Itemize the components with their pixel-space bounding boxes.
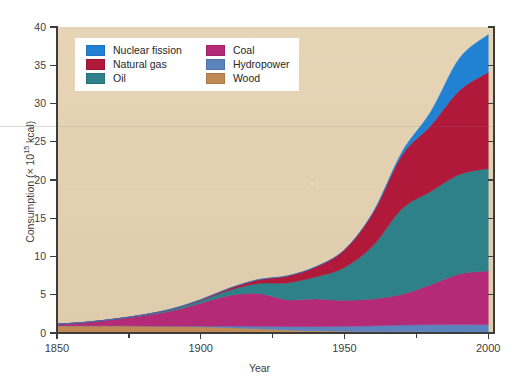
y-tick-5	[50, 294, 56, 295]
legend-label-coal: Coal	[233, 45, 255, 56]
legend-item-natural-gas[interactable]: Natural gas	[86, 59, 182, 70]
x-tick-label-1900: 1900	[171, 343, 231, 354]
y-tick-25	[50, 141, 56, 142]
scan-artifact-line	[57, 126, 494, 127]
x-tick-label-1850: 1850	[27, 343, 87, 354]
x-minor-tick-1925	[272, 333, 273, 338]
legend-item-wood[interactable]: Wood	[206, 73, 290, 84]
y-tick-right-30	[488, 103, 494, 104]
x-tick-label-1950: 1950	[315, 343, 375, 354]
y-tick-right-10	[488, 256, 494, 257]
legend-item-coal[interactable]: Coal	[206, 45, 290, 56]
y-tick-label-40: 40	[6, 22, 46, 33]
legend-column-left: Nuclear fission Natural gas Oil	[86, 45, 182, 84]
y-tick-label-0: 0	[6, 328, 46, 339]
y-tick-35	[50, 65, 56, 66]
y-tick-20	[50, 179, 56, 180]
legend-swatch-icon-wood	[206, 73, 225, 84]
y-tick-right-20	[488, 179, 494, 180]
y-tick-40	[50, 26, 56, 27]
legend-swatch-icon-hydropower	[206, 59, 225, 70]
y-axis-title-prefix: Consumption (× 10	[24, 154, 36, 243]
legend-item-nuclear-fission[interactable]: Nuclear fission	[86, 45, 182, 56]
y-tick-label-35: 35	[6, 60, 46, 71]
y-axis-line	[56, 26, 58, 334]
x-minor-tick-1875	[128, 333, 129, 338]
y-tick-15	[50, 218, 56, 219]
legend-label-wood: Wood	[233, 73, 260, 84]
y-tick-right-25	[488, 141, 494, 142]
legend-label-oil: Oil	[113, 73, 126, 84]
y-tick-label-5: 5	[6, 289, 46, 300]
legend-label-natural-gas: Natural gas	[113, 59, 167, 70]
x-minor-tick-1975	[416, 333, 417, 338]
y-axis-title-suffix: kcal)	[24, 121, 36, 146]
y-tick-right-35	[488, 65, 494, 66]
legend-item-oil[interactable]: Oil	[86, 73, 182, 84]
legend-swatch-icon-oil	[86, 73, 105, 84]
legend-label-hydropower: Hydropower	[233, 59, 290, 70]
x-tick-2000	[488, 333, 489, 339]
y-tick-right-15	[488, 218, 494, 219]
y-tick-right-40	[488, 26, 494, 27]
y-axis-title-exponent: 15	[22, 146, 31, 154]
chart-legend: Nuclear fission Natural gas Oil Coal Hyd…	[75, 38, 299, 91]
y-tick-30	[50, 103, 56, 104]
legend-swatch-icon-coal	[206, 45, 225, 56]
x-axis-title: Year	[0, 362, 519, 374]
legend-swatch-icon-nuclear-fission	[86, 45, 105, 56]
y-tick-right-5	[488, 294, 494, 295]
legend-column-right: Coal Hydropower Wood	[206, 45, 290, 84]
y-tick-10	[50, 256, 56, 257]
y-tick-0	[50, 332, 56, 333]
x-tick-1950	[344, 333, 345, 339]
figure-root: 0510152025303540 1850190019502000 Year C…	[0, 0, 519, 389]
x-tick-1900	[200, 333, 201, 339]
x-axis-line	[56, 332, 495, 334]
legend-item-hydropower[interactable]: Hydropower	[206, 59, 290, 70]
y-axis-title: Consumption (× 1015 kcal)	[22, 77, 36, 287]
x-tick-1850	[56, 333, 57, 339]
x-tick-label-2000: 2000	[458, 343, 518, 354]
scan-speck	[311, 183, 313, 185]
legend-swatch-icon-natural-gas	[86, 59, 105, 70]
legend-label-nuclear-fission: Nuclear fission	[113, 45, 182, 56]
